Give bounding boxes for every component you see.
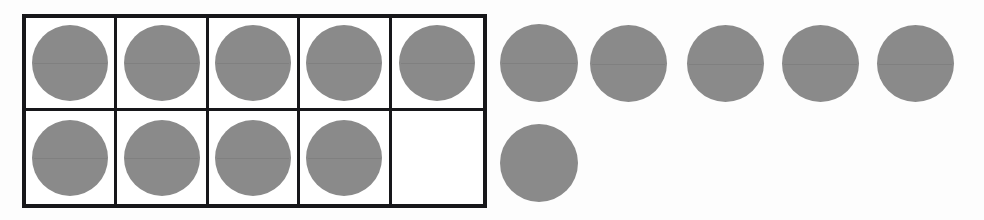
- frame-cell-r2c4[interactable]: [300, 111, 391, 204]
- counter-chip: [32, 25, 108, 101]
- loose-counter-2: [590, 25, 667, 102]
- counter-chip: [32, 120, 108, 196]
- loose-counter-4: [782, 25, 859, 102]
- counter-chip: [215, 25, 291, 101]
- counter-chip: [124, 120, 200, 196]
- empty-cell-placeholder: [399, 120, 475, 196]
- counter-chip: [306, 120, 382, 196]
- ten-frame-figure: [0, 0, 984, 220]
- frame-cell-r1c4[interactable]: [300, 18, 391, 111]
- frame-cell-r2c2[interactable]: [117, 111, 208, 204]
- loose-counter-6: [500, 124, 578, 202]
- frame-cell-r1c1[interactable]: [26, 18, 117, 111]
- ten-frame-grid: [22, 14, 487, 208]
- frame-cell-r1c3[interactable]: [209, 18, 300, 111]
- counter-chip: [215, 120, 291, 196]
- loose-counter-5: [877, 25, 954, 102]
- counter-chip: [124, 25, 200, 101]
- loose-counter-3: [687, 25, 764, 102]
- frame-cell-r1c5[interactable]: [392, 18, 483, 111]
- loose-counter-1: [500, 24, 578, 102]
- counter-chip: [399, 25, 475, 101]
- counter-chip: [306, 25, 382, 101]
- frame-cell-r2c3[interactable]: [209, 111, 300, 204]
- frame-cell-r2c1[interactable]: [26, 111, 117, 204]
- frame-cell-r1c2[interactable]: [117, 18, 208, 111]
- frame-cell-r2c5[interactable]: [392, 111, 483, 204]
